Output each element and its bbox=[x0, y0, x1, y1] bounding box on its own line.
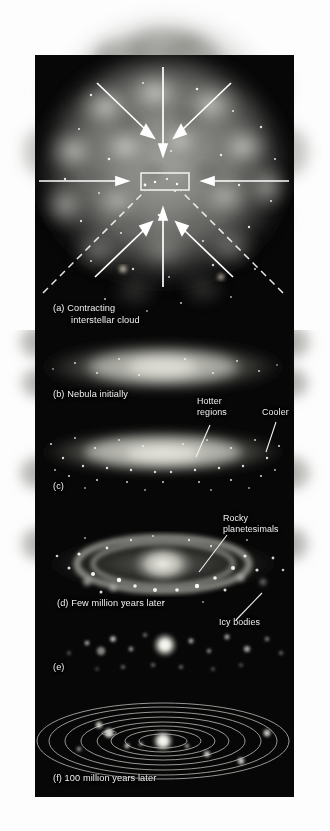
panel-f-label: (f) 100 million years later bbox=[53, 773, 156, 784]
solar-system-formation-figure: (a) Contracting interstellar cloud bbox=[0, 0, 330, 831]
panel-e: (e) bbox=[35, 619, 294, 711]
panel-f: (f) 100 million years later bbox=[35, 711, 294, 797]
panel-a-art bbox=[35, 55, 294, 337]
icy-bodies-leader bbox=[228, 590, 278, 624]
hotter-regions-leader bbox=[180, 405, 240, 465]
panel-a: (a) Contracting interstellar cloud bbox=[35, 55, 294, 337]
panel-a-label-line1: (a) Contracting bbox=[53, 303, 115, 314]
cooler-leader bbox=[250, 416, 310, 476]
panel-a-label-line2: interstellar cloud bbox=[71, 315, 140, 326]
rocky-planetesimals-line1: Rocky bbox=[223, 513, 248, 524]
panel-e-label: (e) bbox=[53, 662, 65, 673]
panel-c-label: (c) bbox=[53, 481, 64, 492]
panel-b-art bbox=[35, 337, 294, 424]
panel-b-label: (b) Nebula initially bbox=[53, 389, 128, 400]
panel-e-art bbox=[35, 619, 294, 711]
panel-b: (b) Nebula initially bbox=[35, 337, 294, 424]
panel-d-label: (d) Few million years later bbox=[57, 598, 165, 609]
rocky-planetesimals-leader bbox=[185, 530, 245, 585]
